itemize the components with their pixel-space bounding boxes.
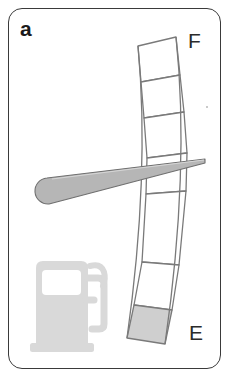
fuel-pump-icon [30,261,105,352]
gauge-full-label: F [188,30,201,51]
figure-panel: a [0,0,231,379]
scan-speck [206,106,208,108]
gauge-segment-1 [138,37,180,82]
gauge-empty-label: E [189,322,203,343]
gauge-scale [127,37,187,344]
gauge-segment-2 [141,75,184,118]
